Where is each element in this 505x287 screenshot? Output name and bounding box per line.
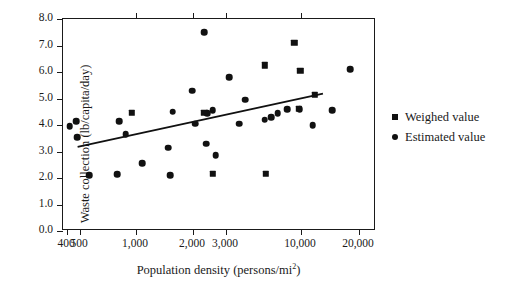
x-axis-tick [301,229,302,235]
x-axis-tick [136,229,137,235]
data-point-square [297,67,303,73]
data-point-circle [275,110,282,117]
x-axis-title-text: Population density (persons/mi [137,263,293,277]
y-axis-tick-label: 8.0 [23,12,53,24]
data-point-circle [347,66,354,73]
data-point-circle [201,29,208,36]
y-axis-tick-label: 3.0 [23,145,53,157]
data-point-circle [67,123,74,130]
data-point-circle [122,131,129,138]
legend-label: Weighed value [405,110,479,124]
square-marker-icon [392,114,398,120]
data-point-circle [213,152,220,159]
data-point-circle [309,122,316,129]
data-point-circle [114,171,121,178]
y-axis-tick [57,152,63,153]
legend-label: Estimated value [405,130,485,144]
x-axis-tick-label: 1,000 [122,237,148,249]
data-point-square [201,110,207,116]
data-point-circle [73,118,80,125]
trend-line [63,19,376,231]
x-axis-title: Population density (persons/mi2) [62,262,375,278]
data-point-circle [86,172,93,179]
y-axis-tick [57,178,63,179]
data-point-circle [209,107,216,114]
legend-item-estimated-value: Estimated value [392,130,485,144]
data-point-circle [236,120,243,127]
y-axis-tick-label: 2.0 [23,171,53,183]
data-point-circle [268,114,275,121]
y-axis-tick-label: 1.0 [23,198,53,210]
y-axis-tick-label: 4.0 [23,118,53,130]
data-point-square [312,91,318,97]
y-axis-tick-label: 5.0 [23,92,53,104]
trend-line-segment [78,94,323,147]
data-point-circle [169,108,176,115]
y-axis-tick [57,125,63,126]
x-axis-tick-label: 500 [70,237,87,249]
x-axis-tick-top [193,13,194,19]
data-point-square [129,110,135,116]
y-axis-tick-label: 7.0 [23,39,53,51]
data-point-circle [192,120,199,127]
circle-marker-icon [392,134,398,140]
chart-figure: Waste collection (lb/capita/day) Populat… [0,0,505,287]
legend-item-weighed-value: Weighed value [392,110,485,124]
data-point-circle [189,87,196,94]
x-axis-tick-top [301,13,302,19]
data-point-square [263,171,269,177]
data-point-square [296,106,302,112]
x-axis-tick [80,229,81,235]
data-point-circle [116,118,123,125]
x-axis-title-tail: ) [296,263,300,277]
data-point-circle [203,140,210,147]
plot-inner [63,19,374,229]
y-axis-tick-label: 0.0 [23,224,53,236]
chart-legend: Weighed value Estimated value [392,110,485,150]
data-point-circle [329,107,336,114]
data-point-circle [242,97,249,104]
data-point-square [262,62,268,68]
plot-area [62,18,375,230]
x-axis-tick-label: 3,000 [212,237,238,249]
x-axis-tick-top [136,13,137,19]
data-point-circle [139,160,146,167]
y-axis-tick-label: 6.0 [23,65,53,77]
data-point-circle [165,144,172,151]
x-axis-tick [226,229,227,235]
data-point-square [210,171,216,177]
data-point-circle [284,106,291,113]
data-point-circle [167,172,174,179]
data-point-circle [74,134,81,141]
y-axis-tick [57,72,63,73]
x-axis-tick-label: 10,000 [284,237,316,249]
data-point-circle [226,74,233,81]
y-axis-tick [57,99,63,100]
data-point-square [291,40,297,46]
x-axis-tick-top [226,13,227,19]
y-axis-tick [57,46,63,47]
y-axis-tick [57,205,63,206]
x-axis-tick-label: 2,000 [179,237,205,249]
x-axis-tick [67,229,68,235]
y-axis-tick [57,231,63,232]
x-axis-tick [193,229,194,235]
x-axis-tick-label: 20,000 [342,237,374,249]
x-axis-tick [359,229,360,235]
y-axis-tick [57,19,63,20]
